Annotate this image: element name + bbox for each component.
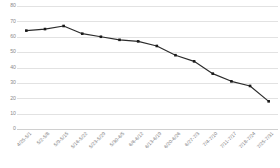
data-point-marker [100,35,103,38]
y-axis-tick-label: 50 [1,49,16,54]
data-point-marker [137,40,140,43]
x-axis-tick-labels: 4/25-5/15/2-5/85/9-5/155/16-5/225/23-5/2… [17,129,278,168]
data-point-marker [230,80,233,83]
data-point-marker [249,85,252,88]
data-point-marker [267,100,270,103]
data-point-marker [62,25,65,28]
y-axis-tick-label: 20 [1,96,16,101]
series-line [17,6,278,129]
data-point-marker [193,60,196,63]
y-axis-tick-label: 30 [1,80,16,85]
y-axis-tick-label: 60 [1,34,16,39]
y-axis-tick-label: 40 [1,65,16,70]
plot-area [17,6,278,129]
data-point-marker [118,39,121,42]
data-point-marker [174,54,177,57]
data-point-marker [156,45,159,48]
y-axis-tick-label: 70 [1,19,16,24]
y-axis-tick-label: 80 [1,3,16,8]
data-point-marker [44,28,47,31]
line-chart: 01020304050607080 4/25-5/15/2-5/85/9-5/1… [0,0,280,168]
series-polyline [26,26,268,101]
data-point-marker [81,32,84,35]
y-axis-tick-label: 0 [1,126,16,131]
data-point-marker [25,29,28,32]
data-point-marker [211,72,214,75]
y-axis-tick-label: 10 [1,111,16,116]
y-axis-tick-labels: 01020304050607080 [0,0,16,168]
